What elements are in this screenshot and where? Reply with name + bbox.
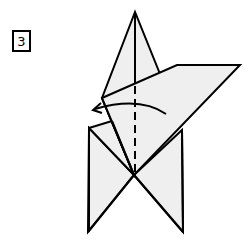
origami-diagram bbox=[0, 0, 251, 241]
